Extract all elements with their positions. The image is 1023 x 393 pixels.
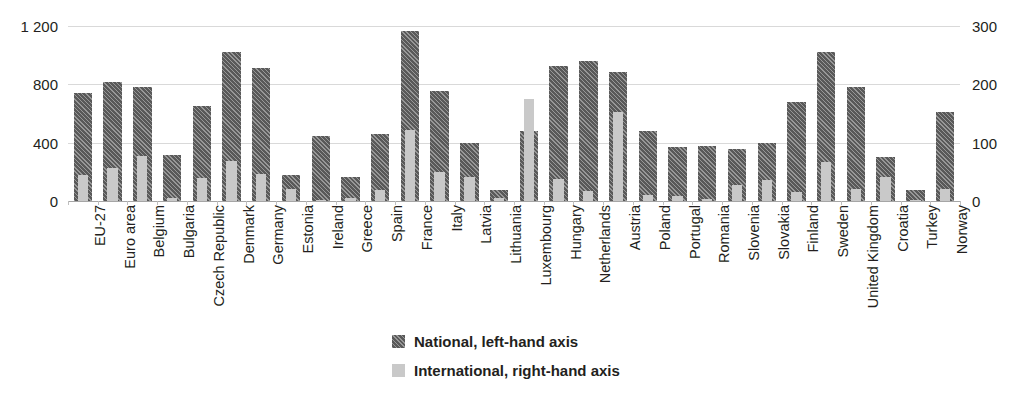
legend-item-international[interactable]: International, right-hand axis: [392, 360, 812, 380]
bar-group: [222, 26, 240, 201]
category-label-text: France: [420, 205, 435, 250]
category-label-text: Lithuania: [509, 205, 524, 264]
bar-international[interactable]: [553, 179, 563, 201]
category-label-text: Slovakia: [777, 205, 792, 260]
category-label-text: Hungary: [569, 205, 584, 260]
bar-international[interactable]: [226, 161, 236, 201]
bar-international[interactable]: [910, 200, 920, 201]
bar-international[interactable]: [702, 199, 712, 201]
x-axis-tick: [425, 201, 426, 205]
bar-group: [401, 26, 419, 201]
category-label-text: Slovenia: [747, 205, 762, 261]
category-label: Netherlands: [594, 205, 609, 283]
category-label-text: Germany: [271, 205, 286, 265]
x-axis-tick: [484, 201, 485, 205]
bar-group: [876, 26, 894, 201]
bar-group: [193, 26, 211, 201]
bar-group: [579, 26, 597, 201]
bar-international[interactable]: [107, 168, 117, 201]
bar-international[interactable]: [524, 99, 534, 201]
x-axis-tick: [306, 201, 307, 205]
bar-group: [163, 26, 181, 201]
right-axis-tick-100: 100: [972, 135, 1020, 152]
bar-national[interactable]: [639, 131, 657, 201]
bar-international[interactable]: [375, 190, 385, 201]
bar-international[interactable]: [197, 178, 207, 201]
x-axis-tick: [960, 201, 961, 205]
category-label: Austria: [624, 205, 639, 250]
category-axis-labels: EU-27Euro areaBelgiumBulgariaCzech Repub…: [68, 205, 960, 335]
bar-international[interactable]: [643, 195, 653, 201]
bar-national[interactable]: [698, 146, 716, 201]
bar-international[interactable]: [464, 177, 474, 201]
bar-group: [460, 26, 478, 201]
bar-international[interactable]: [732, 185, 742, 201]
category-label-text: Denmark: [242, 205, 257, 264]
bar-international[interactable]: [167, 198, 177, 202]
x-axis-tick: [157, 201, 158, 205]
category-label: Latvia: [475, 205, 490, 244]
category-label: Bulgaria: [178, 205, 193, 258]
bar-group: [817, 26, 835, 201]
x-axis-tick: [246, 201, 247, 205]
category-label-text: Austria: [628, 205, 643, 250]
bar-international[interactable]: [613, 112, 623, 201]
category-label: Poland: [654, 205, 669, 250]
bar-international[interactable]: [880, 177, 890, 202]
bar-international[interactable]: [821, 162, 831, 201]
legend-swatch-national-icon: [392, 335, 405, 348]
bar-group: [103, 26, 121, 201]
bar-national[interactable]: [787, 102, 805, 201]
bar-international[interactable]: [494, 198, 504, 202]
x-axis-tick: [930, 201, 931, 205]
category-label: Sweden: [832, 205, 847, 257]
bar-group: [341, 26, 359, 201]
left-axis-tick-800: 800: [0, 76, 58, 93]
bar-international[interactable]: [762, 180, 772, 201]
category-label-text: Belgium: [152, 205, 167, 257]
bar-international[interactable]: [345, 198, 355, 201]
x-axis-tick: [722, 201, 723, 205]
bar-national[interactable]: [847, 87, 865, 201]
bar-international[interactable]: [78, 175, 88, 201]
bar-international[interactable]: [940, 189, 950, 201]
bar-international[interactable]: [583, 191, 593, 202]
x-axis-tick: [127, 201, 128, 205]
x-axis-tick: [692, 201, 693, 205]
bar-international[interactable]: [405, 130, 415, 201]
legend-item-national[interactable]: National, left-hand axis: [392, 331, 812, 351]
right-axis-tick-200: 200: [972, 76, 1020, 93]
category-label-text: United Kingdom: [866, 205, 881, 308]
bar-national[interactable]: [936, 112, 954, 201]
bar-international[interactable]: [791, 192, 801, 201]
category-label-text: EU-27: [93, 205, 108, 246]
x-axis-tick: [901, 201, 902, 205]
bar-international[interactable]: [137, 156, 147, 202]
category-label: EU-27: [89, 205, 104, 246]
bar-international[interactable]: [851, 189, 861, 201]
bar-national[interactable]: [163, 155, 181, 201]
category-label: Portugal: [684, 205, 699, 259]
category-label: Italy: [446, 205, 461, 232]
category-label: Slovakia: [773, 205, 788, 260]
category-label-text: Netherlands: [598, 205, 613, 283]
bar-international[interactable]: [672, 196, 682, 201]
x-axis-tick: [68, 201, 69, 205]
bar-group: [312, 26, 330, 201]
category-label: Denmark: [238, 205, 253, 264]
bar-group: [906, 26, 924, 201]
bar-group: [758, 26, 776, 201]
x-axis-tick: [871, 201, 872, 205]
bar-international[interactable]: [286, 189, 296, 201]
bar-national[interactable]: [312, 136, 330, 201]
bar-group: [282, 26, 300, 201]
category-label: Romania: [713, 205, 728, 263]
bar-group: [936, 26, 954, 201]
category-label-text: Czech Republic: [212, 205, 227, 307]
bar-international[interactable]: [434, 172, 444, 201]
category-label: Croatia: [892, 205, 907, 252]
bar-national[interactable]: [579, 61, 597, 201]
bar-national[interactable]: [668, 147, 686, 201]
bar-international[interactable]: [256, 174, 266, 201]
bar-international[interactable]: [316, 200, 326, 201]
